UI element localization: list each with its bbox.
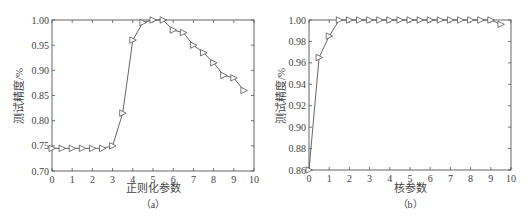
caption: （b） — [398, 199, 423, 210]
data-line — [52, 20, 244, 148]
y-tick-label: 0.85 — [32, 90, 50, 101]
y-tick-label: 0.80 — [32, 115, 50, 126]
x-axis-title: 核参数 — [394, 181, 427, 194]
plot-frame — [309, 20, 511, 170]
triangle-marker-icon — [437, 17, 444, 23]
chart-regularization: 0123456789100.700.750.800.850.900.951.00… — [0, 0, 265, 221]
y-tick-label: 0.90 — [289, 122, 307, 133]
triangle-marker-icon — [130, 37, 137, 43]
triangle-marker-icon — [69, 145, 76, 151]
triangle-marker-icon — [170, 27, 177, 33]
caption: （a） — [141, 199, 165, 210]
triangle-marker-icon — [79, 145, 86, 151]
triangle-marker-icon — [397, 17, 404, 23]
triangle-marker-icon — [417, 17, 424, 23]
y-tick-label: 0.70 — [32, 166, 50, 177]
triangle-marker-icon — [498, 21, 505, 27]
triangle-marker-icon — [377, 17, 384, 23]
y-axis-title: 测试精度/% — [12, 68, 25, 124]
data-line — [309, 20, 501, 170]
y-tick-label: 0.92 — [289, 100, 307, 111]
x-tick-label: 4 — [387, 173, 392, 184]
triangle-marker-icon — [336, 17, 343, 23]
x-tick-label: 2 — [90, 174, 95, 185]
x-tick-label: 9 — [231, 174, 236, 185]
x-tick-label: 10 — [249, 174, 259, 185]
triangle-marker-icon — [357, 17, 364, 23]
triangle-marker-icon — [100, 145, 107, 151]
x-tick-label: 2 — [347, 173, 352, 184]
triangle-marker-icon — [211, 60, 218, 66]
x-tick-label: 7 — [191, 174, 196, 185]
x-tick-label: 1 — [327, 173, 332, 184]
triangle-marker-icon — [59, 145, 66, 151]
triangle-marker-icon — [231, 75, 238, 81]
x-axis-title: 正则化参数 — [126, 181, 181, 194]
x-tick-label: 0 — [307, 173, 312, 184]
axes: 0123456789100.700.750.800.850.900.951.00 — [32, 15, 260, 186]
x-tick-label: 6 — [428, 173, 433, 184]
y-tick-label: 0.86 — [289, 165, 307, 176]
y-tick-label: 0.98 — [289, 36, 307, 47]
x-tick-label: 1 — [70, 174, 75, 185]
x-tick-label: 9 — [488, 173, 493, 184]
triangle-marker-icon — [89, 145, 96, 151]
triangle-marker-icon — [478, 17, 485, 23]
y-tick-label: 0.95 — [32, 40, 50, 51]
x-tick-label: 8 — [211, 174, 216, 185]
x-tick-label: 8 — [468, 173, 473, 184]
axes: 0123456789100.860.880.900.920.940.960.98… — [289, 15, 517, 185]
y-tick-label: 0.96 — [289, 57, 307, 68]
x-tick-label: 7 — [448, 173, 453, 184]
y-tick-label: 0.90 — [32, 65, 50, 76]
x-tick-label: 10 — [506, 173, 516, 184]
triangle-marker-icon — [458, 17, 465, 23]
x-tick-label: 3 — [110, 174, 115, 185]
y-tick-label: 0.94 — [289, 79, 307, 90]
y-tick-label: 1.00 — [32, 15, 50, 26]
triangle-marker-icon — [180, 29, 187, 35]
y-axis-title: 测试精度/% — [274, 68, 287, 124]
triangle-marker-icon — [221, 72, 228, 78]
y-tick-label: 0.88 — [289, 143, 307, 154]
y-tick-label: 1.00 — [289, 15, 307, 26]
chart-kernel: 0123456789100.860.880.900.920.940.960.98… — [265, 0, 530, 221]
x-tick-label: 3 — [367, 173, 372, 184]
triangle-marker-icon — [326, 33, 333, 39]
x-tick-label: 0 — [50, 174, 55, 185]
triangle-marker-icon — [241, 87, 248, 93]
y-tick-label: 0.75 — [32, 140, 50, 151]
